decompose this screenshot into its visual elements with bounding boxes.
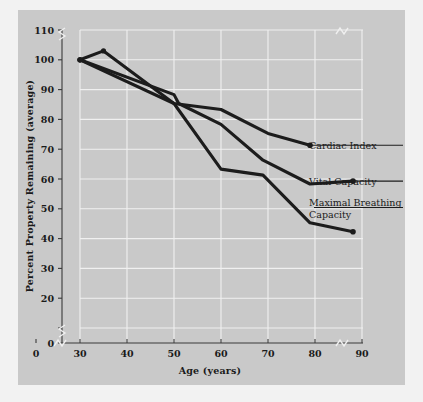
annotation-labels-layer: Cardiac Index Vital Capacity Maximal Bre… <box>18 10 405 385</box>
annotation-label-cardiac-index: Cardiac Index <box>309 140 377 151</box>
chart-panel: 110 100 90 80 70 60 50 40 30 20 0 0 30 4… <box>18 10 405 385</box>
figure-container: 110 100 90 80 70 60 50 40 30 20 0 0 30 4… <box>0 0 423 402</box>
annotation-label-maximal-breathing-capacity-line2: Capacity <box>309 209 352 220</box>
annotation-label-vital-capacity: Vital Capacity <box>308 176 377 187</box>
annotation-label-maximal-breathing-capacity: Maximal Breathing <box>309 197 402 208</box>
